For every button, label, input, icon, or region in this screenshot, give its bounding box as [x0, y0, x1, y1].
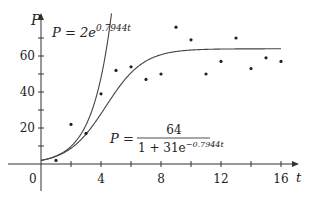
svg-text:1 + 31e−0.7944t: 1 + 31e−0.7944t — [138, 140, 224, 155]
x-axis-label: t — [296, 170, 302, 185]
log-label-numerator: 64 — [166, 123, 182, 137]
x-axis-arrow-icon — [292, 161, 299, 167]
y-axis-label: P — [30, 12, 41, 28]
data-point — [249, 67, 252, 70]
data-point — [54, 159, 57, 162]
log-label-lhs: P = — [109, 131, 134, 146]
exp-label-lhs: P = 2e — [51, 25, 96, 40]
log-label-denominator: 1 + 31e — [138, 141, 186, 155]
x-tick-label: 8 — [157, 172, 165, 186]
data-point — [279, 60, 282, 63]
chart-container: 481216204060 P t 0 P = 2e0.7944t P = 64 … — [0, 0, 315, 199]
log-label-den-power: −0.7944t — [186, 140, 225, 149]
data-point — [204, 72, 207, 75]
data-point — [174, 26, 177, 29]
y-tick-label: 60 — [20, 49, 35, 63]
svg-text:P = 2e0.7944t: P = 2e0.7944t — [51, 23, 131, 40]
data-point — [84, 132, 87, 135]
x-tick-label: 4 — [97, 172, 105, 186]
data-point — [234, 36, 237, 39]
x-tick-label: 12 — [213, 172, 228, 186]
tick-labels: 481216204060 — [20, 49, 289, 186]
y-tick-label: 40 — [20, 85, 35, 99]
logistic-curve-annotation: P = 64 1 + 31e−0.7944t — [109, 123, 224, 155]
data-point — [129, 65, 132, 68]
data-point — [159, 72, 162, 75]
data-point — [69, 123, 72, 126]
data-point — [99, 92, 102, 95]
exp-label-power: 0.7944t — [96, 23, 131, 33]
exp-curve-annotation: P = 2e0.7944t — [51, 23, 131, 40]
data-point — [264, 56, 267, 59]
y-tick-label: 20 — [20, 121, 35, 135]
data-point — [114, 69, 117, 72]
data-point — [219, 60, 222, 63]
origin-label: 0 — [29, 172, 37, 186]
data-point — [189, 38, 192, 41]
x-tick-label: 16 — [273, 172, 288, 186]
data-point — [144, 78, 147, 81]
chart-svg: 481216204060 P t 0 P = 2e0.7944t P = 64 … — [0, 0, 315, 199]
